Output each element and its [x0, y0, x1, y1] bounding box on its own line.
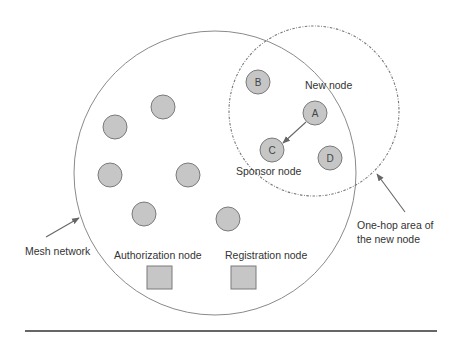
mesh-nodes [98, 95, 240, 231]
one-hop-label-line2: the new node [357, 233, 420, 245]
node-a: A [303, 101, 327, 125]
node-c: C [260, 138, 284, 162]
mesh-network-arrow [46, 218, 79, 237]
node-a-label: A [312, 108, 319, 119]
arrow-a-to-c [283, 122, 306, 143]
mesh-node [98, 163, 122, 187]
sponsor-node-label: Sponsor node [236, 165, 302, 177]
mesh-network-diagram: B A C D New node Sponsor node Mesh netwo… [0, 0, 456, 337]
node-d-label: D [326, 153, 333, 164]
one-hop-label-line1: One-hop area of [357, 219, 434, 231]
node-d: D [318, 146, 342, 170]
mesh-node [176, 163, 200, 187]
authorization-node-label: Authorization node [114, 249, 202, 261]
mesh-network-label: Mesh network [25, 245, 91, 257]
authorization-node-box [147, 266, 172, 289]
node-b-label: B [255, 77, 262, 88]
mesh-node [103, 115, 127, 139]
node-c-label: C [268, 145, 275, 156]
mesh-node [151, 95, 175, 119]
registration-node-label: Registration node [225, 249, 307, 261]
new-node-label: New node [305, 79, 352, 91]
mesh-node [216, 207, 240, 231]
one-hop-arrow [377, 174, 405, 212]
registration-node-box [231, 266, 256, 289]
mesh-node [132, 202, 156, 226]
node-b: B [246, 70, 270, 94]
